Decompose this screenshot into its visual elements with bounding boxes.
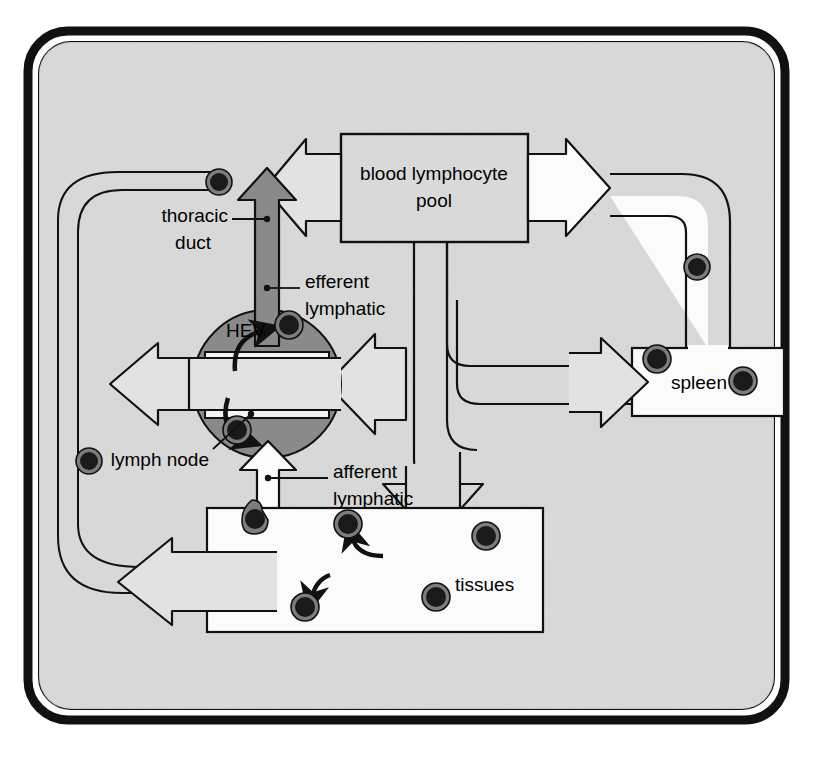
lymphocyte bbox=[684, 254, 710, 280]
lymphocyte bbox=[729, 367, 757, 395]
spleen-label: spleen bbox=[671, 372, 727, 393]
hev-label: HEV bbox=[226, 320, 265, 341]
thoracic-duct-label-line1: thoracic bbox=[161, 205, 228, 226]
lymphocyte bbox=[291, 593, 319, 621]
figure-canvas: blood lymphocyte pool thoracic duct effe… bbox=[0, 0, 813, 761]
blood-lymphocyte-pool-box bbox=[341, 134, 528, 242]
lymphocyte bbox=[334, 510, 362, 538]
efferent-label-line2: lymphatic bbox=[305, 298, 385, 319]
tissue-left-arrow-shaft bbox=[207, 552, 277, 611]
lymphocyte bbox=[275, 311, 303, 339]
thoracic-duct-label-line2: duct bbox=[175, 232, 212, 253]
spleen-channel-gap-cover bbox=[688, 345, 728, 353]
node-central-band bbox=[189, 358, 341, 410]
lymphocyte bbox=[643, 345, 671, 373]
tissues-label: tissues bbox=[455, 574, 514, 595]
lymphocyte bbox=[206, 169, 232, 195]
lymph-node-label: lymph node bbox=[111, 449, 209, 470]
lymphocyte bbox=[76, 448, 102, 474]
lymphocyte bbox=[472, 522, 500, 550]
efferent-label-line1: efferent bbox=[305, 271, 370, 292]
lymphocyte bbox=[422, 583, 450, 611]
lymphocyte bbox=[223, 416, 251, 444]
afferent-label-line2: lymphatic bbox=[333, 488, 413, 509]
blood-pool-label-line1: blood lymphocyte bbox=[360, 163, 508, 184]
afferent-label-line1: afferent bbox=[333, 461, 398, 482]
lymphocyte-recirculation-diagram: blood lymphocyte pool thoracic duct effe… bbox=[0, 0, 813, 761]
blood-pool-label-line2: pool bbox=[416, 190, 452, 211]
